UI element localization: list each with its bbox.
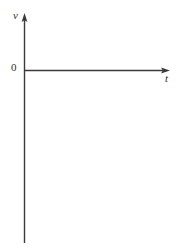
x-axis-label: t	[165, 73, 168, 84]
axes-drawing	[0, 0, 178, 251]
velocity-time-axes-figure: v t 0	[0, 0, 178, 251]
y-axis-label: v	[13, 10, 18, 21]
origin-label: 0	[11, 62, 17, 73]
